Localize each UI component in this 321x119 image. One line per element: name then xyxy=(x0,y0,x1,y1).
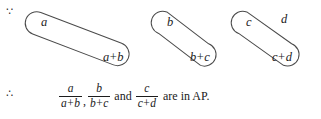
fraction-denominator: c+d xyxy=(136,97,158,110)
term-label-a: a xyxy=(41,16,47,29)
fraction-b-over-b-plus-c: b b+c xyxy=(88,83,110,109)
sum-operand-left: c xyxy=(272,50,278,64)
term-label-d: d xyxy=(281,13,287,26)
sum-label-b-plus-c: b+c xyxy=(190,51,210,64)
math-figure-panel: ∵ a b c d a+b b+c xyxy=(0,0,321,119)
den-operand-left: b xyxy=(90,97,96,109)
fraction-numerator: b xyxy=(93,83,105,96)
sum-label-a-plus-b: a+b xyxy=(103,51,124,64)
term-label-b: b xyxy=(167,16,173,29)
fraction-denominator: b+c xyxy=(88,97,110,110)
conclusion-tail-text: are in AP. xyxy=(163,90,209,102)
therefore-symbol: ∴ xyxy=(6,88,13,99)
conjunction-and: and xyxy=(114,90,131,102)
conclusion-line: a a+b , b b+c and c c+d are in AP. xyxy=(58,83,212,109)
fraction-a-over-a-plus-b: a a+b xyxy=(59,83,82,109)
sum-label-c-plus-d: c+d xyxy=(272,51,292,64)
fraction-numerator: c xyxy=(141,83,152,96)
sum-operand-right: d xyxy=(286,50,292,64)
den-operand-left: a xyxy=(61,97,67,109)
because-symbol: ∵ xyxy=(6,6,13,17)
den-operand-right: b xyxy=(74,97,80,109)
comma-separator: , xyxy=(83,95,86,109)
plus-operator: + xyxy=(278,50,286,64)
den-operand-right: d xyxy=(150,97,156,109)
sum-operand-right: b xyxy=(117,50,123,64)
fraction-denominator: a+b xyxy=(59,97,82,110)
term-label-c: c xyxy=(246,16,252,29)
fraction-numerator: a xyxy=(65,83,77,96)
fraction-c-over-c-plus-d: c c+d xyxy=(136,83,158,109)
sum-operand-right: c xyxy=(204,50,210,64)
den-operand-right: c xyxy=(103,97,108,109)
